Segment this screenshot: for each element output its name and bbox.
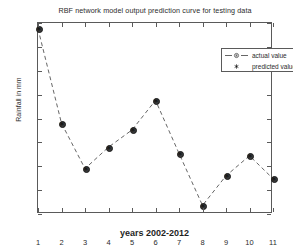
x-tick-label: 8: [193, 238, 213, 247]
x-tick-mark-top: [62, 23, 63, 27]
data-point-marker: [36, 26, 43, 33]
x-tick-label: 11: [263, 238, 283, 247]
x-tick-mark: [179, 208, 180, 212]
chart-figure: RBF network model output prediction curv…: [0, 0, 293, 248]
plot-area: ∗∗∗∗∗∗∗∗∗∗∗ 50100150200250300350400450 1…: [37, 22, 272, 213]
y-tick-mark-right: [267, 190, 271, 191]
x-tick-label: 6: [146, 238, 166, 247]
x-tick-mark: [62, 208, 63, 212]
y-tick-mark: [38, 166, 42, 167]
y-tick-mark-right: [267, 23, 271, 24]
chart-title: RBF network model output prediction curv…: [37, 6, 273, 15]
x-tick-mark: [226, 208, 227, 212]
x-tick-label: 5: [122, 238, 142, 247]
y-tick-mark: [38, 214, 42, 215]
data-point-marker: [224, 173, 231, 180]
x-tick-mark-top: [250, 23, 251, 27]
x-tick-mark: [85, 208, 86, 212]
x-tick-mark: [250, 208, 251, 212]
x-tick-label: 7: [169, 238, 189, 247]
x-tick-label: 2: [52, 238, 72, 247]
y-tick-mark: [38, 142, 42, 143]
data-point-marker: [153, 98, 160, 105]
y-tick-mark: [38, 190, 42, 191]
x-tick-mark: [38, 208, 39, 212]
y-tick-mark: [38, 71, 42, 72]
legend-star-icon: [222, 61, 252, 72]
y-axis-label: Rainfall in mm: [15, 50, 22, 150]
y-tick-mark-right: [267, 95, 271, 96]
legend-label-actual-value: actual value: [252, 52, 287, 59]
y-tick-mark-right: [267, 166, 271, 167]
x-tick-label: 9: [216, 238, 236, 247]
x-tick-mark-top: [203, 23, 204, 27]
x-tick-label: 1: [28, 238, 48, 247]
x-tick-mark: [156, 208, 157, 212]
data-point-marker: [106, 145, 113, 152]
data-point-marker: [177, 151, 184, 158]
chart-legend: actual value predicted value: [221, 48, 293, 72]
x-tick-mark: [203, 208, 204, 212]
x-tick-mark-top: [156, 23, 157, 27]
x-tick-mark-top: [132, 23, 133, 27]
x-tick-mark-top: [38, 23, 39, 27]
y-tick-mark-right: [267, 119, 271, 120]
data-point-marker: [271, 176, 278, 183]
legend-label-predicted-value: predicted value: [252, 63, 293, 70]
y-tick-mark: [38, 119, 42, 120]
x-tick-mark: [109, 208, 110, 212]
x-tick-mark-top: [109, 23, 110, 27]
x-tick-label: 4: [99, 238, 119, 247]
y-tick-mark: [38, 95, 42, 96]
x-tick-mark-top: [226, 23, 227, 27]
x-axis-label: years 2002-2012: [37, 228, 272, 238]
x-tick-label: 3: [75, 238, 95, 247]
legend-item-predicted-value: predicted value: [222, 61, 293, 72]
data-point-marker: [83, 166, 90, 173]
y-tick-mark-right: [267, 142, 271, 143]
x-tick-mark-top: [179, 23, 180, 27]
legend-dashed-circle-icon: [222, 50, 252, 61]
y-tick-mark-right: [267, 214, 271, 215]
x-tick-mark: [132, 208, 133, 212]
y-tick-mark: [38, 47, 42, 48]
data-point-marker: [200, 203, 207, 210]
x-tick-mark: [273, 208, 274, 212]
x-tick-label: 10: [240, 238, 260, 247]
x-tick-mark-top: [85, 23, 86, 27]
legend-item-actual-value: actual value: [222, 50, 293, 61]
data-point-marker: [130, 127, 137, 134]
data-point-marker: [59, 121, 66, 128]
x-tick-mark-top: [273, 23, 274, 27]
